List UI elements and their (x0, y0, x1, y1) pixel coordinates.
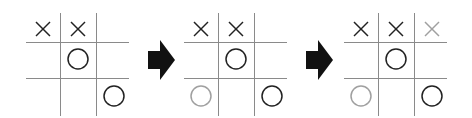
grid-line (60, 13, 61, 116)
x-mark-icon (185, 13, 217, 45)
board-1 (26, 13, 129, 116)
grid-line (378, 13, 379, 116)
o-mark-icon (220, 43, 252, 75)
arrow-right-icon (306, 40, 334, 84)
x-mark-icon (62, 13, 94, 45)
grid-line (184, 78, 287, 79)
x-mark-icon (380, 13, 412, 45)
o-mark-icon (416, 80, 448, 112)
o-mark-icon (98, 80, 130, 112)
o-mark-icon (256, 80, 288, 112)
grid-line (344, 78, 447, 79)
o-mark-icon (62, 43, 94, 75)
board-2 (184, 13, 287, 116)
x-mark-icon (345, 13, 377, 45)
grid-line (254, 13, 255, 116)
o-mark-icon (185, 80, 217, 112)
grid-line (218, 13, 219, 116)
board-3 (344, 13, 447, 116)
grid-line (414, 13, 415, 116)
grid-line (96, 13, 97, 116)
arrow-right-icon (148, 40, 176, 84)
x-mark-icon (416, 13, 448, 45)
o-mark-icon (345, 80, 377, 112)
x-mark-icon (220, 13, 252, 45)
grid-line (26, 78, 129, 79)
o-mark-icon (380, 43, 412, 75)
x-mark-icon (27, 13, 59, 45)
